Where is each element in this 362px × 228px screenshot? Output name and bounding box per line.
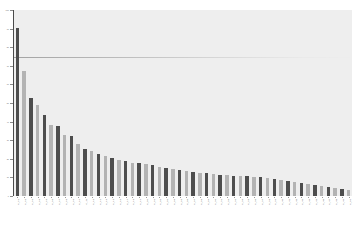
y-axis-tick: 10 <box>0 177 13 178</box>
bar <box>340 189 344 196</box>
bar <box>117 160 121 196</box>
bar <box>137 163 141 196</box>
x-axis-tick-label: C_03 <box>32 199 35 205</box>
x-axis-tick-label: C_35 <box>248 199 251 205</box>
bar <box>131 163 135 196</box>
x-axis-tick-label: C_26 <box>187 199 190 205</box>
y-axis-tick: 20 <box>0 159 13 160</box>
x-axis-tick-label: C_06 <box>52 199 55 205</box>
y-axis-tick: 60 <box>0 84 13 85</box>
bar <box>212 174 216 196</box>
x-axis-tick-label: C_40 <box>282 199 285 205</box>
y-axis-tick: 70 <box>0 66 13 67</box>
bar <box>333 188 337 196</box>
bar <box>56 126 60 196</box>
x-axis-tick-label: C_42 <box>296 199 299 205</box>
x-axis-tick-label: C_33 <box>235 199 238 205</box>
y-axis-tick-mark <box>10 29 13 30</box>
x-axis-tick-label: C_15 <box>113 199 116 205</box>
x-axis-tick-label: C_29 <box>208 199 211 205</box>
bar <box>245 176 249 196</box>
bar <box>144 164 148 196</box>
x-axis-tick-label: C_10 <box>79 199 82 205</box>
bar-series <box>14 10 352 196</box>
y-axis-tick-mark <box>10 196 13 197</box>
plot-area <box>14 10 352 196</box>
bar <box>191 172 195 196</box>
y-axis-tick: 50 <box>0 103 13 104</box>
bar <box>306 184 310 196</box>
x-axis-tick-label: C_16 <box>120 199 123 205</box>
bar <box>313 185 317 196</box>
y-axis-tick-label: 80 <box>7 45 9 49</box>
bar <box>347 190 351 197</box>
bar <box>90 151 94 196</box>
y-axis-tick-mark <box>10 84 13 85</box>
x-axis-tick-label: C_07 <box>59 199 62 205</box>
y-axis-tick-mark <box>10 47 13 48</box>
bar <box>273 179 277 196</box>
bar <box>259 177 263 196</box>
bar <box>43 115 47 196</box>
x-axis-tick-label: C_44 <box>309 199 312 205</box>
y-axis-tick: 90 <box>0 29 13 30</box>
x-axis-tick-label: C_43 <box>302 199 305 205</box>
y-axis-tick: 40 <box>0 122 13 123</box>
x-axis-tick-label: C_48 <box>336 199 339 205</box>
bar <box>286 181 290 196</box>
x-axis-tick-label: C_49 <box>343 199 346 205</box>
y-axis-tick-mark <box>10 66 13 67</box>
bar <box>104 156 108 196</box>
bar <box>97 154 101 196</box>
x-axis-tick-label: C_25 <box>181 199 184 205</box>
bar <box>266 178 270 196</box>
x-axis-tick-label: C_37 <box>262 199 265 205</box>
bar <box>83 149 87 196</box>
bar <box>320 186 324 196</box>
bar <box>293 182 297 196</box>
y-axis-tick-mark <box>10 177 13 178</box>
x-axis-tick-label: C_36 <box>255 199 258 205</box>
bar <box>158 167 162 196</box>
bar <box>36 105 40 196</box>
x-axis-tick-label: C_39 <box>275 199 278 205</box>
y-axis-tick: 80 <box>0 47 13 48</box>
x-axis-tick-label: C_11 <box>86 199 89 205</box>
bar <box>279 180 283 196</box>
x-axis-tick-label: C_28 <box>201 199 204 205</box>
bar <box>76 144 80 196</box>
bar <box>22 71 26 196</box>
y-axis-line <box>13 10 14 196</box>
x-axis-tick-label: C_31 <box>221 199 224 205</box>
x-axis-tick-label: C_45 <box>316 199 319 205</box>
y-axis-tick: 0 <box>0 196 13 197</box>
y-axis-tick-label: 40 <box>7 120 9 124</box>
x-axis-tick-label: C_46 <box>323 199 326 205</box>
bar <box>171 169 175 196</box>
x-axis-tick-label: C_32 <box>228 199 231 205</box>
y-axis-tick-label: 0 <box>8 194 9 198</box>
x-axis-tick-label: C_04 <box>39 199 42 205</box>
x-axis-tick-label: C_13 <box>100 199 103 205</box>
y-axis-tick-mark <box>10 159 13 160</box>
x-axis-tick-label: C_02 <box>25 199 28 205</box>
y-axis-tick-mark <box>10 10 13 11</box>
x-axis-tick-label: C_34 <box>242 199 245 205</box>
y-axis-tick-label: 60 <box>7 82 9 86</box>
x-axis-tick-label: C_14 <box>106 199 109 205</box>
x-axis-tick-label: C_50 <box>350 199 353 205</box>
x-axis-tick-label: C_41 <box>289 199 292 205</box>
bar-chart-figure: 0102030405060708090100 C_01C_02C_03C_04C… <box>0 0 362 228</box>
bar <box>124 161 128 196</box>
bar <box>232 176 236 196</box>
x-axis-tick-label: C_23 <box>167 199 170 205</box>
x-axis-tick-label: C_30 <box>215 199 218 205</box>
y-axis-tick-label: 20 <box>7 157 9 161</box>
x-axis-tick-label: C_01 <box>18 199 21 205</box>
bar <box>252 177 256 196</box>
bar <box>63 135 67 196</box>
y-axis-tick-label: 90 <box>7 27 9 31</box>
y-axis-tick-label: 30 <box>7 138 9 142</box>
x-axis-tick-label: C_05 <box>46 199 49 205</box>
bar <box>218 175 222 196</box>
